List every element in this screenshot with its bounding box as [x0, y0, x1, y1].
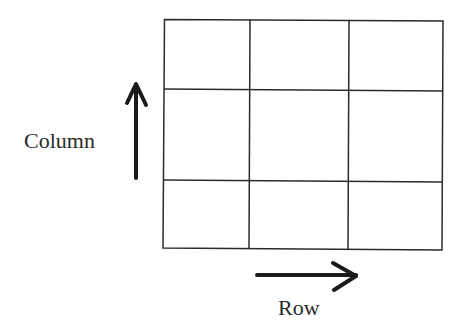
grid-hline-1 — [164, 89, 443, 91]
up-arrow-icon — [127, 84, 146, 178]
right-arrow-icon — [257, 263, 356, 290]
grid — [163, 20, 443, 251]
grid-border — [163, 20, 443, 251]
grid-vline-2 — [348, 21, 349, 250]
column-label: Column — [24, 128, 95, 154]
grid-diagram — [0, 0, 460, 334]
grid-hline-2 — [163, 180, 442, 182]
grid-vline-1 — [249, 20, 250, 249]
row-label: Row — [278, 295, 320, 321]
